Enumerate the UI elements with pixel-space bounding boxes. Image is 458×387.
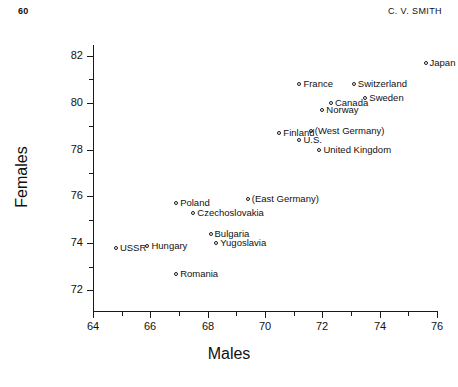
data-point-label-east-germany: (East Germany): [252, 194, 319, 204]
data-point-label-hungary: Hungary: [151, 241, 187, 251]
y-tick-82: [87, 56, 93, 57]
x-tick-minor-67: [179, 312, 180, 316]
data-point-united-kingdom: [317, 148, 321, 152]
x-tick-label-76: 76: [422, 320, 452, 332]
data-point-label-sweden: Sweden: [369, 93, 403, 103]
x-tick-minor-69: [236, 312, 237, 316]
x-tick-label-74: 74: [365, 320, 395, 332]
x-tick-74: [380, 312, 381, 318]
y-tick-label-74: 74: [53, 236, 83, 248]
x-tick-70: [265, 312, 266, 318]
y-tick-minor-79: [89, 126, 93, 127]
data-point-label-u-s: U.S.: [303, 135, 321, 145]
x-tick-64: [93, 312, 94, 318]
data-point-france: [297, 82, 301, 86]
data-point-label-japan: Japan: [430, 58, 456, 68]
y-tick-78: [87, 150, 93, 151]
data-point-label-ussr: USSR: [120, 243, 146, 253]
data-point-u-s: [297, 138, 301, 142]
data-point-label-romania: Romania: [180, 269, 218, 279]
x-tick-minor-71: [294, 312, 295, 316]
y-tick-74: [87, 243, 93, 244]
data-point-finland: [277, 131, 281, 135]
y-tick-minor-77: [89, 173, 93, 174]
data-point-poland: [174, 201, 178, 205]
x-tick-label-68: 68: [193, 320, 223, 332]
data-point-norway: [320, 108, 324, 112]
x-tick-minor-75: [408, 312, 409, 316]
data-point-czechoslovakia: [191, 211, 195, 215]
scatter-plot-figure: 727476788082 64666870727476 JapanSwitzer…: [0, 0, 458, 387]
y-tick-label-80: 80: [53, 96, 83, 108]
data-point-romania: [174, 272, 178, 276]
y-tick-label-78: 78: [53, 143, 83, 155]
y-axis-title: Females: [13, 127, 31, 227]
y-tick-minor-81: [89, 79, 93, 80]
data-point-bulgaria: [209, 232, 213, 236]
data-point-label-united-kingdom: United Kingdom: [323, 145, 391, 155]
x-axis-title: Males: [0, 345, 458, 363]
y-tick-minor-73: [89, 267, 93, 268]
y-tick-label-72: 72: [53, 283, 83, 295]
y-tick-76: [87, 196, 93, 197]
x-tick-minor-65: [122, 312, 123, 316]
data-point-label-switzerland: Switzerland: [358, 79, 407, 89]
y-tick-80: [87, 103, 93, 104]
y-tick-minor-75: [89, 220, 93, 221]
data-point-label-norway: Norway: [326, 105, 358, 115]
x-tick-minor-73: [351, 312, 352, 316]
data-point-ussr: [114, 246, 118, 250]
data-point-switzerland: [352, 82, 356, 86]
x-tick-label-72: 72: [307, 320, 337, 332]
x-tick-label-70: 70: [250, 320, 280, 332]
data-point-label-west-germany: (West Germany): [315, 126, 385, 136]
data-point-label-france: France: [303, 79, 333, 89]
x-tick-72: [322, 312, 323, 318]
x-tick-68: [208, 312, 209, 318]
x-tick-76: [437, 312, 438, 318]
data-point-yugoslavia: [214, 241, 218, 245]
data-point-japan: [424, 61, 428, 65]
y-tick-label-82: 82: [53, 49, 83, 61]
y-tick-72: [87, 290, 93, 291]
data-point-label-czechoslovakia: Czechoslovakia: [197, 208, 264, 218]
y-axis-line: [93, 45, 94, 312]
y-tick-label-76: 76: [53, 189, 83, 201]
data-point-east-germany: [246, 197, 250, 201]
x-tick-66: [150, 312, 151, 318]
data-point-label-yugoslavia: Yugoslavia: [220, 238, 266, 248]
x-tick-label-66: 66: [135, 320, 165, 332]
x-tick-label-64: 64: [78, 320, 108, 332]
